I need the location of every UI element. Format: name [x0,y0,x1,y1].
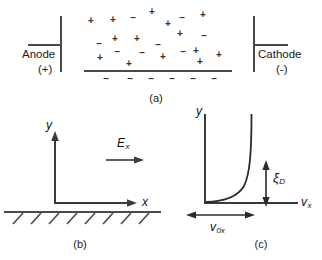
panel-b-caption: (b) [73,238,86,250]
surface-ion-negative: – [148,74,154,84]
debye-length-label: ξD [273,170,285,186]
panel-b: y x Ex (b) [0,112,165,260]
surface-ion-negative: – [190,74,196,84]
surface-negative-row: –––––– [0,0,322,92]
electric-field-label: Ex [117,136,129,151]
debye-length-subscript: D [279,177,285,186]
panel-b-y-axis-label: y [46,118,52,132]
panel-a: Anode (+) Cathode (-) ++–++–+–++–+–+––+–… [0,0,322,112]
surface-ion-negative: – [169,74,175,84]
velocity-axis-subscript: x [307,201,311,210]
panel-c-caption: (c) [255,238,268,250]
panel-c-graphics [165,112,322,260]
panel-c-x-axis-label: vx [301,195,311,210]
panel-c: y vx ξD v0x (c) [165,112,322,260]
debye-length-symbol: ξ [273,170,279,185]
surface-ion-negative: – [103,74,109,84]
slip-velocity-subscript: 0x [216,226,225,235]
surface-ion-negative: – [127,74,133,84]
panel-a-caption: (a) [149,92,162,104]
surface-ion-negative: – [211,74,217,84]
electric-field-symbol: E [117,136,125,150]
slip-velocity-label: v0x [210,220,225,235]
panel-b-x-axis-label: x [142,195,148,209]
electric-field-subscript: x [125,142,129,151]
panel-c-y-axis-label: y [196,104,202,118]
figure-root: Anode (+) Cathode (-) ++–++–+–++–+–+––+–… [0,0,322,260]
